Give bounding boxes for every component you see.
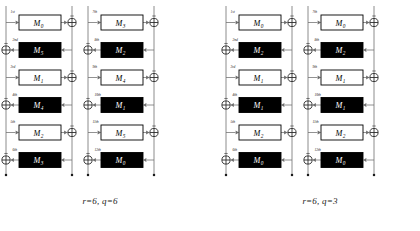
xor-node-icon — [222, 101, 230, 109]
bus-terminator-right — [373, 174, 375, 176]
module-subscript: 0 — [123, 160, 126, 166]
module-box-m2[interactable]: M2 — [101, 43, 143, 58]
module-subscript: 2 — [41, 133, 44, 139]
xor-node-icon — [370, 128, 378, 136]
module-box-m4[interactable]: M4 — [101, 70, 143, 85]
ordinal-label: 4th — [233, 93, 238, 97]
arrow-head-icon — [64, 76, 67, 80]
module-box-m2[interactable]: M2 — [239, 125, 281, 140]
ordinal-label: 12th — [95, 148, 102, 152]
arrow-head-icon — [16, 76, 19, 80]
arrow-head-icon — [98, 21, 101, 25]
module-subscript: 2 — [261, 133, 264, 139]
module-box-m5[interactable]: M5 — [19, 43, 61, 58]
module-box-m1[interactable]: M1 — [239, 70, 281, 85]
arrow-head-icon — [11, 158, 14, 162]
arrow-head-icon — [236, 131, 239, 135]
arrow-head-icon — [61, 158, 64, 162]
module-box-m1[interactable]: M1 — [321, 70, 363, 85]
xor-node-icon — [150, 128, 158, 136]
arrow-head-icon — [366, 21, 369, 25]
xor-node-icon — [2, 46, 10, 54]
module-subscript: 1 — [123, 105, 126, 111]
module-subscript: 2 — [261, 50, 264, 56]
module-subscript: 2 — [343, 133, 346, 139]
xor-node-icon — [68, 128, 76, 136]
ordinal-label: 6th — [233, 148, 238, 152]
module-box-m0[interactable]: M0 — [19, 15, 61, 30]
arrow-head-icon — [98, 76, 101, 80]
ordinal-label: 5th — [11, 120, 16, 124]
module-subscript: 1 — [261, 105, 264, 111]
bus-terminator-left — [307, 174, 309, 176]
module-box-m0[interactable]: M0 — [239, 15, 281, 30]
bus-terminator-left — [225, 174, 227, 176]
diagram-group-left: 1stM02ndM53rdM14thM45thM26thM37thM38thM2… — [0, 0, 200, 231]
module-subscript: 1 — [343, 105, 346, 111]
module-box-m1[interactable]: M1 — [19, 70, 61, 85]
module-box-m0[interactable]: M0 — [101, 153, 143, 168]
arrow-head-icon — [93, 48, 96, 52]
arrow-head-icon — [16, 21, 19, 25]
figure-root: 1stM02ndM53rdM14thM45thM26thM37thM38thM2… — [0, 0, 420, 231]
ordinal-label: 12th — [315, 148, 322, 152]
arrow-head-icon — [146, 131, 149, 135]
module-box-m3[interactable]: M3 — [101, 15, 143, 30]
module-subscript: 0 — [41, 23, 44, 29]
arrow-head-icon — [231, 48, 234, 52]
xor-node-icon — [288, 128, 296, 136]
arrow-head-icon — [281, 48, 284, 52]
module-box-m0[interactable]: M0 — [321, 153, 363, 168]
xor-node-icon — [84, 46, 92, 54]
arrow-head-icon — [236, 76, 239, 80]
schematic-canvas-right: 1stM02ndM23rdM14thM15thM26thM07thM08thM2… — [220, 0, 420, 196]
ordinal-label: 2nd — [233, 38, 239, 42]
module-box-m2[interactable]: M2 — [321, 43, 363, 58]
module-box-m2[interactable]: M2 — [239, 43, 281, 58]
ordinal-label: 9th — [313, 65, 318, 69]
module-subscript: 5 — [123, 133, 126, 139]
module-column: 1stM02ndM53rdM14thM45thM26thM3 — [2, 6, 76, 176]
module-box-m0[interactable]: M0 — [239, 153, 281, 168]
module-column: 1stM02ndM23rdM14thM15thM26thM0 — [222, 6, 296, 176]
ordinal-label: 11th — [313, 120, 319, 124]
arrow-head-icon — [93, 158, 96, 162]
module-box-m1[interactable]: M1 — [239, 98, 281, 113]
module-box-m2[interactable]: M2 — [19, 125, 61, 140]
xor-node-icon — [304, 101, 312, 109]
bus-terminator-left — [5, 174, 7, 176]
arrow-head-icon — [284, 76, 287, 80]
ordinal-label: 2nd — [13, 38, 19, 42]
arrow-head-icon — [143, 158, 146, 162]
module-box-m5[interactable]: M5 — [101, 125, 143, 140]
ordinal-label: 3rd — [231, 65, 236, 69]
ordinal-label: 10th — [315, 93, 322, 97]
arrow-head-icon — [64, 21, 67, 25]
module-subscript: 0 — [343, 23, 346, 29]
diagram-group-right: 1stM02ndM23rdM14thM15thM26thM07thM08thM2… — [220, 0, 420, 231]
arrow-head-icon — [61, 103, 64, 107]
module-box-m2[interactable]: M2 — [321, 125, 363, 140]
xor-node-icon — [222, 156, 230, 164]
ordinal-label: 8th — [95, 38, 100, 42]
xor-node-icon — [84, 101, 92, 109]
bus-terminator-left — [87, 174, 89, 176]
module-box-m3[interactable]: M3 — [19, 153, 61, 168]
module-box-m1[interactable]: M1 — [101, 98, 143, 113]
ordinal-label: 3rd — [11, 65, 16, 69]
arrow-head-icon — [366, 131, 369, 135]
xor-node-icon — [68, 73, 76, 81]
arrow-head-icon — [313, 48, 316, 52]
bus-terminator-right — [71, 174, 73, 176]
xor-node-icon — [288, 18, 296, 26]
module-box-m0[interactable]: M0 — [321, 15, 363, 30]
arrow-head-icon — [143, 103, 146, 107]
module-box-m4[interactable]: M4 — [19, 98, 61, 113]
module-subscript: 5 — [41, 50, 44, 56]
schematic-canvas-left: 1stM02ndM53rdM14thM45thM26thM37thM38thM2… — [0, 0, 200, 196]
module-subscript: 2 — [123, 50, 126, 56]
arrow-head-icon — [313, 158, 316, 162]
xor-node-icon — [68, 18, 76, 26]
ordinal-label: 9th — [93, 65, 98, 69]
module-box-m1[interactable]: M1 — [321, 98, 363, 113]
